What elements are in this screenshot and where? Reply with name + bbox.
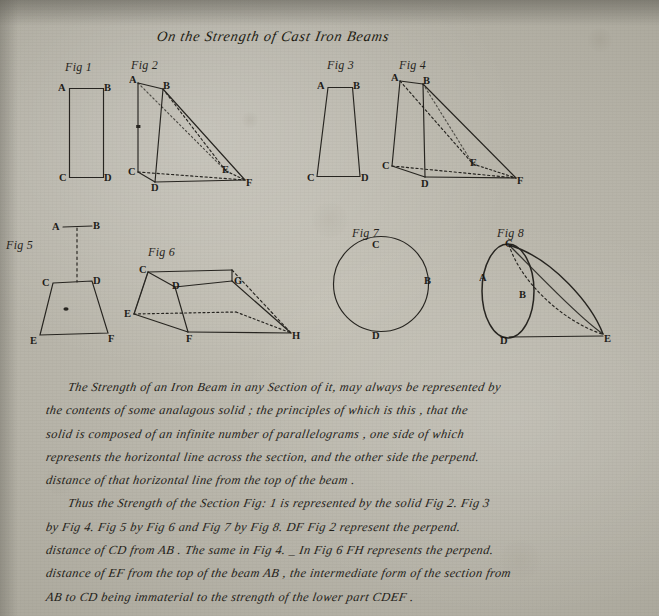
body-line-6: Thus the Strength of the Section Fig: 1 … (44, 492, 652, 515)
body-text-block: The Strength of an Iron Beam in any Sect… (46, 376, 650, 609)
body-line-8: distance of CD from AB . The same in Fig… (44, 539, 652, 562)
figure-8-drawing (482, 244, 603, 338)
figure-1-drawing (70, 89, 104, 178)
body-line-5: distance of that horizontal line from th… (44, 469, 652, 492)
figure-4-drawing (392, 81, 516, 178)
body-line-7: by Fig 4. Fig 5 by Fig 6 and Fig 7 by Fi… (44, 516, 652, 539)
figure-3-drawing (317, 88, 360, 177)
body-line-9: distance of EF from the top of the beam … (44, 562, 652, 585)
body-line-10: AB to CD being immaterial to the strengt… (44, 586, 652, 609)
body-line-1: The Strength of an Iron Beam in any Sect… (44, 376, 652, 399)
body-line-4: represents the horizontal line across th… (44, 446, 652, 469)
body-line-3: solid is composed of an infinite number … (44, 423, 652, 446)
body-line-2: the contents of some analagous solid ; t… (44, 399, 652, 422)
figure-6-drawing (134, 270, 291, 333)
figure-2-drawing (136, 83, 245, 182)
figure-5-drawing (40, 226, 108, 335)
figure-7-drawing (334, 237, 429, 332)
manuscript-page: On the Strength of Cast Iron Beams (0, 0, 659, 616)
